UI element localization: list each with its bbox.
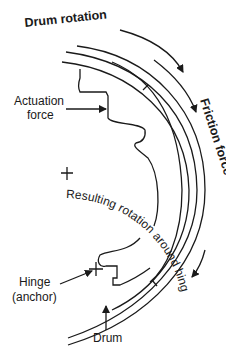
friction-force-label: Friction force bbox=[197, 97, 226, 177]
hinge-cross-icon bbox=[89, 262, 103, 276]
shoe-lower bbox=[98, 238, 150, 285]
actuation-force-label-2: force bbox=[27, 108, 54, 122]
hinge-arrow bbox=[60, 271, 92, 284]
center-cross-icon bbox=[61, 167, 73, 180]
drum-label: Drum bbox=[93, 331, 122, 345]
brake-shoe-arcs bbox=[62, 62, 189, 310]
resulting-rotation-label: Resulting rotation around hinge bbox=[0, 0, 192, 293]
hinge-label-2: (anchor) bbox=[12, 290, 57, 304]
drum-rotation-label: Drum rotation bbox=[24, 7, 108, 30]
friction-arrow-lower bbox=[192, 250, 205, 277]
hinge-label-1: Hinge bbox=[19, 275, 51, 289]
drum-brake-diagram: Drum rotation Friction force Actuation f… bbox=[0, 0, 226, 356]
actuation-force-label-1: Actuation bbox=[14, 94, 64, 108]
drum-rotation-arrow bbox=[120, 30, 183, 72]
